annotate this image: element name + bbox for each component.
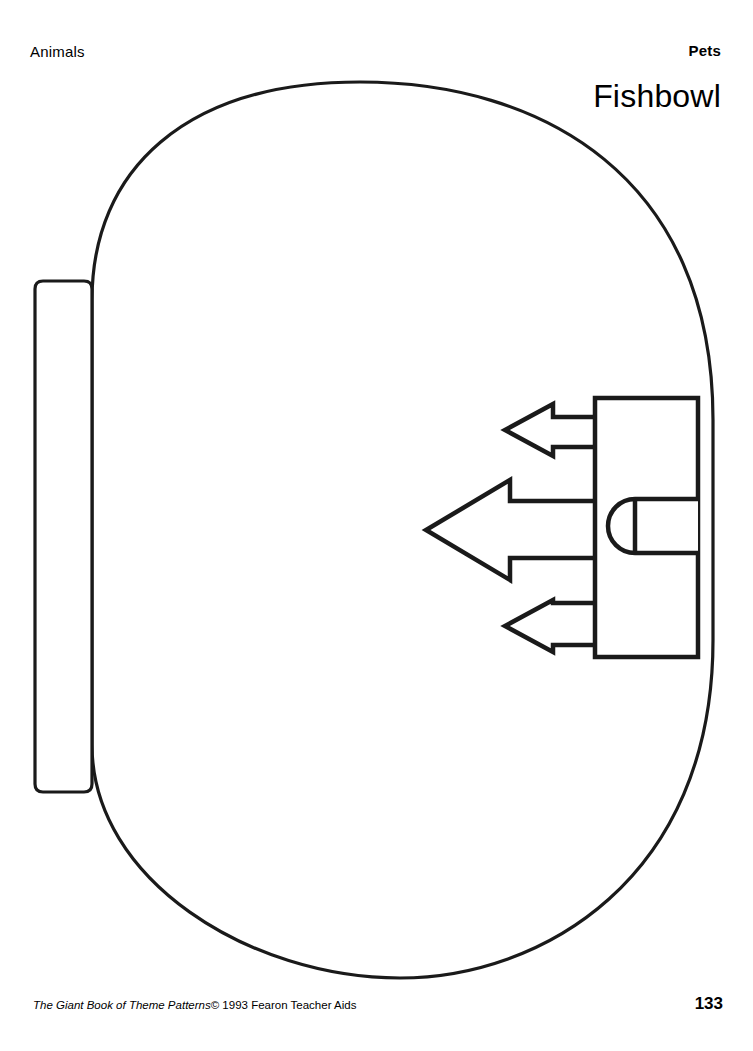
- page-title: Fishbowl: [593, 80, 721, 112]
- footer-credit-title: The Giant Book of Theme Patterns: [33, 999, 211, 1011]
- fish-fin-bottom: [505, 600, 597, 652]
- header-section: Pets: [689, 43, 722, 58]
- fish-body: [595, 398, 698, 657]
- page-number: 133: [695, 995, 723, 1012]
- footer-credit-rest: © 1993 Fearon Teacher Aids: [211, 999, 357, 1011]
- fishbowl-illustration: [0, 0, 753, 1051]
- fish-tail-detail: [608, 499, 698, 553]
- bowl-side-panel: [35, 281, 92, 792]
- bowl-outline: [92, 82, 713, 978]
- worksheet-page: Animals Pets Fishbowl The Giant Book of …: [0, 0, 753, 1051]
- fish-fin-top: [505, 404, 597, 456]
- footer-credit: The Giant Book of Theme Patterns© 1993 F…: [33, 1000, 356, 1012]
- header-category: Animals: [30, 44, 85, 59]
- fish-fin-middle: [426, 480, 597, 580]
